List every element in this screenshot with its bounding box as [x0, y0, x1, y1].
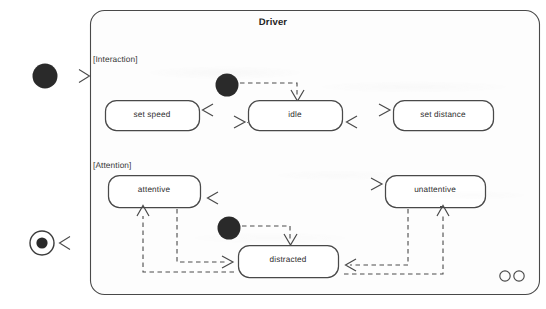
initial-pseudostate-attention	[218, 217, 241, 240]
state-diagram-canvas	[0, 0, 546, 309]
state-idle[interactable]	[249, 101, 343, 131]
state-set-distance[interactable]	[394, 101, 494, 131]
state-set-speed[interactable]	[106, 101, 200, 131]
initial-pseudostate-outer	[33, 64, 58, 89]
final-pseudostate-outer	[30, 231, 54, 255]
transition-driver-to-final	[60, 237, 91, 250]
state-distracted[interactable]	[239, 246, 339, 278]
transition-initial-to-driver	[59, 70, 90, 83]
state-attentive[interactable]	[109, 176, 201, 208]
state-unattentive[interactable]	[386, 176, 486, 208]
initial-pseudostate-interaction	[216, 74, 239, 97]
